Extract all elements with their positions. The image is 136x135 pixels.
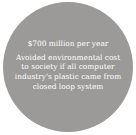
stat-headline: $700 million per year [28, 39, 109, 48]
stat-description-line: industry's plastic came from [13, 72, 123, 82]
stat-description: Avoided environmental cost to society if… [13, 53, 123, 91]
stat-description-line: Avoided environmental cost [13, 53, 123, 63]
stat-description-line: closed loop system [13, 82, 123, 92]
stat-description-line: to society if all computer [13, 62, 123, 72]
stat-circle: $700 million per year Avoided environmen… [3, 2, 133, 132]
